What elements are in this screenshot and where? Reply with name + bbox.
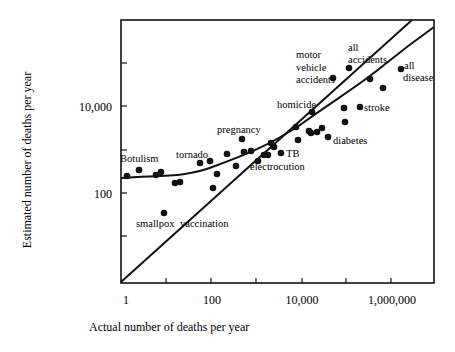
label-pregnancy: pregnancy	[217, 124, 261, 135]
label-all-accidents-2: accidents	[348, 54, 387, 65]
label-botulism: Botulism	[120, 153, 159, 164]
x-tick-label-100: 100	[203, 293, 221, 307]
x-tick-label-1000000: 1,000,000	[368, 293, 416, 307]
x-tick-label-1: 1	[123, 293, 129, 307]
label-all-accidents-1: all	[348, 42, 359, 53]
label-motor-vehicle-accidents: accidents	[296, 74, 335, 85]
label-motor: motor	[296, 49, 322, 60]
label-all-disease-1: all	[404, 60, 415, 71]
label-stroke: stroke	[364, 102, 390, 113]
y-tick-label-10000: 10,000	[79, 100, 112, 114]
label-vaccination: vaccination	[180, 218, 229, 229]
risk-perception-chart: 1 100 10,000 1,000,000 100 10,000 Actual…	[0, 0, 455, 352]
point-labels: Botulism tornado pregnancy smallpox vacc…	[120, 42, 434, 229]
y-tick-label-100: 100	[94, 187, 112, 201]
label-homicide: homicide	[277, 99, 316, 110]
y-axis-ticks	[121, 63, 127, 236]
label-smallpox: smallpox	[136, 218, 175, 229]
x-tick-label-10000: 10,000	[286, 293, 319, 307]
label-tb: TB	[286, 148, 299, 159]
x-axis-title: Actual number of deaths per year	[89, 320, 249, 334]
label-diabetes: diabetes	[333, 135, 367, 146]
label-electrocution: electrocution	[250, 161, 306, 172]
label-tornado: tornado	[176, 149, 208, 160]
y-axis-title: Estimated number of deaths per year	[20, 72, 34, 248]
label-vehicle: vehicle	[296, 62, 327, 73]
label-all-disease-2: disease	[403, 72, 434, 83]
